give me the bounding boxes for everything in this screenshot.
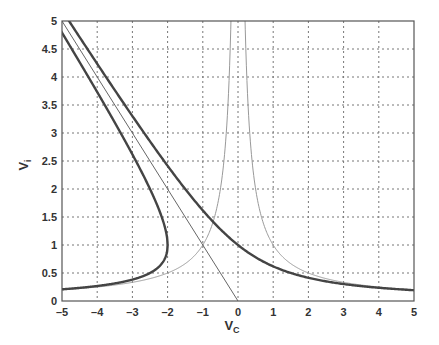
y-tick-label: 3 (51, 127, 57, 139)
curve-diagonal (55, 10, 238, 301)
y-tick-label: 0 (51, 295, 57, 307)
y-tick-label: 5 (51, 15, 57, 27)
y-axis-ticks: 00.511.522.533.544.55 (42, 15, 58, 307)
x-tick-label: 5 (411, 306, 417, 318)
x-tick-label: 3 (341, 306, 347, 318)
curve-thick-upper (55, 0, 414, 290)
x-axis-label: VC (224, 318, 240, 335)
y-tick-label: 4.5 (42, 43, 57, 55)
chart: –5–4–3–2–1012345 00.511.522.533.544.55 V… (0, 0, 439, 345)
x-tick-label: 1 (270, 306, 276, 318)
x-tick-label: –1 (197, 306, 209, 318)
x-tick-label: –4 (91, 306, 104, 318)
x-axis-ticks: –5–4–3–2–1012345 (56, 306, 417, 318)
x-tick-label: 0 (235, 306, 241, 318)
x-tick-label: –5 (56, 306, 68, 318)
plot-curves (55, 0, 414, 301)
y-tick-label: 2 (51, 183, 57, 195)
curve-thick-left (55, 21, 168, 289)
grid-lines (62, 21, 414, 301)
y-tick-label: 1.5 (42, 211, 57, 223)
x-tick-label: 2 (305, 306, 311, 318)
y-tick-label: 0.5 (42, 267, 57, 279)
y-axis-label: Vi (16, 159, 33, 170)
y-tick-label: 1 (51, 239, 57, 251)
x-tick-label: –3 (126, 306, 138, 318)
y-tick-label: 3.5 (42, 99, 57, 111)
y-tick-label: 2.5 (42, 155, 57, 167)
y-tick-label: 4 (51, 71, 58, 83)
x-tick-label: 4 (376, 306, 383, 318)
x-tick-label: –2 (161, 306, 173, 318)
